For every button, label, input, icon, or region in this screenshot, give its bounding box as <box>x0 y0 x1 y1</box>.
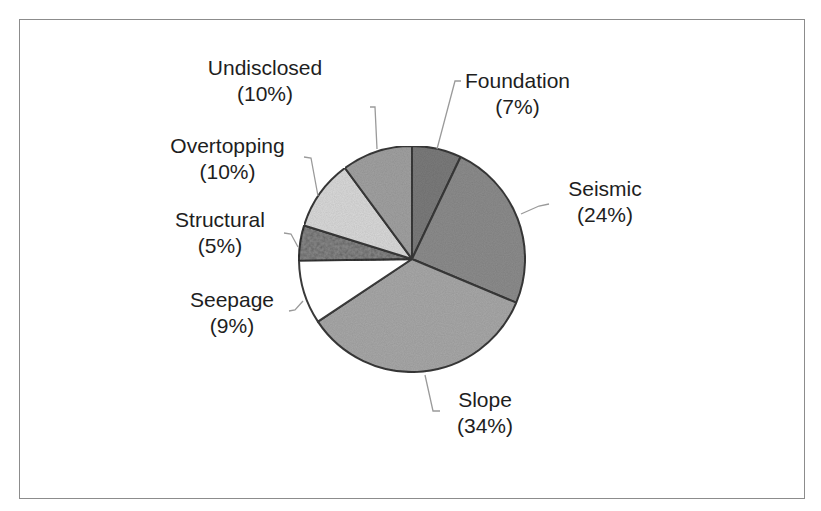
label-name: Undisclosed <box>205 55 325 81</box>
label-name: Seepage <box>172 287 292 313</box>
label-percent: (9%) <box>172 313 292 339</box>
label-percent: (10%) <box>150 159 305 185</box>
label-percent: (5%) <box>160 233 280 259</box>
label-percent: (24%) <box>555 202 655 228</box>
label-undisclosed: Undisclosed (10%) <box>205 55 325 107</box>
label-foundation: Foundation (7%) <box>460 68 575 120</box>
label-structural: Structural (5%) <box>160 207 280 259</box>
leader-line-overtopping <box>304 157 318 196</box>
label-slope: Slope (34%) <box>435 387 535 439</box>
label-name: Foundation <box>460 68 575 94</box>
label-name: Seismic <box>555 176 655 202</box>
leader-line-undisclosed <box>370 107 377 149</box>
label-seismic: Seismic (24%) <box>555 176 655 228</box>
label-percent: (10%) <box>205 81 325 107</box>
label-percent: (7%) <box>460 94 575 120</box>
label-percent: (34%) <box>435 413 535 439</box>
leader-line-structural <box>284 233 298 247</box>
label-name: Overtopping <box>150 133 305 159</box>
label-name: Slope <box>435 387 535 413</box>
label-seepage: Seepage (9%) <box>172 287 292 339</box>
label-name: Structural <box>160 207 280 233</box>
label-overtopping: Overtopping (10%) <box>150 133 305 185</box>
leader-line-foundation <box>437 81 461 149</box>
pie-chart <box>0 0 821 511</box>
leader-line-seismic <box>521 204 549 214</box>
